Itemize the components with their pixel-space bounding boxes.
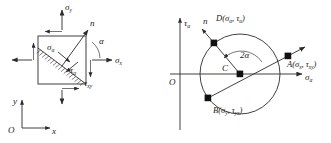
sigma-axis-label: σα xyxy=(305,72,313,83)
sigma-y-label: σy xyxy=(65,2,72,13)
tau-alpha-label: τα xyxy=(70,65,77,76)
two-alpha-label: 2α xyxy=(240,50,250,60)
center-C-label: C xyxy=(222,63,229,73)
normal-direction-arrow xyxy=(62,30,88,66)
right-origin-label: O xyxy=(169,77,176,87)
mohrs-circle-diagram: τα σα O C n 2α D(σα, τα) A(σx, τxy) B(σy… xyxy=(169,13,317,130)
point-D-label: D(σα, τα) xyxy=(215,13,245,24)
normal-n-label-right: n xyxy=(203,16,208,26)
sigma-alpha-label: σα xyxy=(47,42,55,53)
inclined-plane-hatching xyxy=(37,50,84,86)
sigma-x-label: σx xyxy=(115,55,122,66)
point-D-marker xyxy=(211,40,218,47)
x-axis-label: x xyxy=(51,126,56,136)
alpha-angle-label: α xyxy=(99,36,104,46)
tau-axis-label: τα xyxy=(184,18,191,29)
point-C-marker xyxy=(237,71,244,78)
y-axis-label: y xyxy=(12,96,17,106)
stress-element-diagram: σy σx σα τα τxy n α y x O xyxy=(8,2,122,136)
point-B-marker xyxy=(205,95,212,102)
figure-root: σy σx σα τα τxy n α y x O xyxy=(0,0,331,143)
figure-canvas: σy σx σα τα τxy n α y x O xyxy=(0,0,331,143)
left-origin-label: O xyxy=(8,125,15,135)
normal-n-label: n xyxy=(90,18,95,28)
point-B-label: B(σy, τyx) xyxy=(213,105,243,116)
tau-xy-label: τxy xyxy=(84,78,93,89)
point-A-label: A(σx, τxy) xyxy=(286,59,317,70)
